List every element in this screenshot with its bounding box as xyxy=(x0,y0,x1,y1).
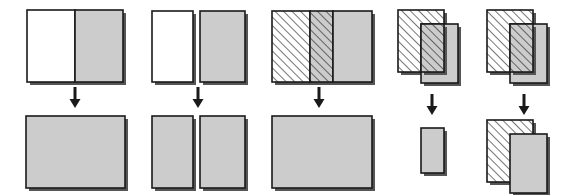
gray-rect-right xyxy=(200,116,245,188)
group-1-result xyxy=(26,116,128,191)
hatched-gray-overlap-band xyxy=(310,11,333,82)
group-1-down-arrow-icon-shaft xyxy=(74,87,77,99)
white-rect-left xyxy=(152,11,193,82)
group-3-down-arrow-icon-shaft xyxy=(318,87,321,99)
white-rect-left xyxy=(27,10,75,82)
gray-rect-left xyxy=(152,116,193,188)
gray-rect-front xyxy=(510,134,547,193)
merged-gray-rect xyxy=(272,116,372,188)
group-4-down-arrow-icon-shaft xyxy=(431,94,434,106)
group-2-inputs xyxy=(152,11,248,85)
group-4-result xyxy=(421,128,447,176)
group-2-result xyxy=(152,116,248,191)
hatched-intersection-band xyxy=(421,24,444,72)
gray-rect-right xyxy=(200,11,245,82)
hatched-rect-left xyxy=(272,11,310,82)
merged-gray-rect xyxy=(26,116,125,188)
figure-root xyxy=(0,0,573,195)
group-1-inputs xyxy=(27,10,126,85)
gray-rect-right xyxy=(333,11,372,82)
group-3-inputs xyxy=(272,11,375,85)
group-3-result xyxy=(272,116,375,191)
group-5-down-arrow-icon-shaft xyxy=(523,94,526,106)
intersection-gray-rect xyxy=(421,128,444,173)
group-2-down-arrow-icon-shaft xyxy=(197,87,200,99)
rectangle-combination-diagram xyxy=(0,0,573,195)
gray-rect-right xyxy=(75,10,123,82)
hatched-intersection-band xyxy=(510,24,533,72)
